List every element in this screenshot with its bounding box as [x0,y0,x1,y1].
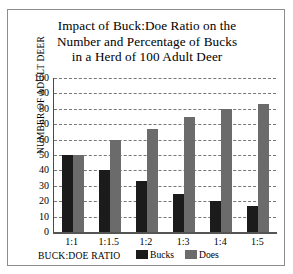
gridline [54,78,276,79]
gridline [54,186,276,187]
legend-swatch-bucks-icon [136,250,148,259]
y-axis-tick-label: 30 [9,181,49,191]
gridline [54,170,276,171]
chart-title-line-2: Number and Percentage of Bucks [16,34,278,50]
y-axis-tick-label: 100 [9,73,49,83]
bar-does-1-4 [221,109,232,232]
y-axis-tick-label: 10 [9,212,49,222]
bar-does-1-3 [184,117,195,233]
chart-title-line-1: Impact of Buck:Doe Ratio on the [16,18,278,34]
bar-bucks-1-2 [136,181,147,232]
bar-bucks-1-4 [210,201,221,232]
chart-screenshot: Impact of Buck:Doe Ratio on the Number a… [0,0,293,274]
x-axis-title: BUCK:DOE RATIO [38,250,120,261]
gridline [54,201,276,202]
bar-does-1-1 [73,155,84,232]
gridline [54,93,276,94]
y-axis-tick-label: 90 [9,88,49,98]
bar-bucks-1-1 [62,155,73,232]
legend-swatch-does-icon [185,250,197,259]
legend-entry-bucks: Bucks [136,249,174,260]
y-axis-tick-label: 60 [9,135,49,145]
gridline [54,217,276,218]
legend-entry-does: Does [185,249,219,260]
gridline [54,109,276,110]
chart-legend: Bucks Does [136,249,219,260]
chart-frame: Impact of Buck:Doe Ratio on the Number a… [7,9,285,266]
bar-bucks-1-3 [173,194,184,233]
gridline [54,140,276,141]
gridline [54,124,276,125]
legend-label-bucks: Bucks [150,249,174,260]
y-axis-tick-label: 70 [9,119,49,129]
bar-does-1-1.5 [110,140,121,232]
bar-does-1-2 [147,129,158,232]
x-axis-line [53,232,277,234]
legend-label-does: Does [199,249,219,260]
bar-bucks-1-5 [247,206,258,232]
chart-title: Impact of Buck:Doe Ratio on the Number a… [16,18,278,65]
y-axis-tick-label: 40 [9,165,49,175]
y-axis-tick-label: 20 [9,196,49,206]
chart-title-line-3: in a Herd of 100 Adult Deer [16,49,278,65]
gridline [54,155,276,156]
bar-bucks-1-1.5 [99,170,110,232]
y-axis-tick-label: 50 [9,150,49,160]
x-axis-tick-label: 1:5 [232,236,282,247]
plot-area [53,78,276,232]
bar-does-1-5 [258,104,269,232]
y-axis-tick-label: 80 [9,104,49,114]
y-axis-tick-label: 0 [9,227,49,237]
